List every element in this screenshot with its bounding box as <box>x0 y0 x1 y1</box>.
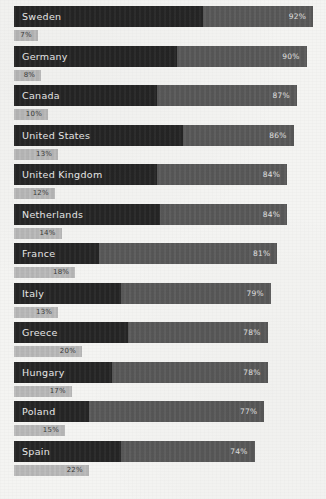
bar-primary[interactable]: France81% <box>14 243 277 264</box>
bar-value-label: 92% <box>289 6 306 27</box>
bar-secondary[interactable]: 18% <box>14 267 75 278</box>
bar-primary[interactable]: Netherlands84% <box>14 204 287 225</box>
chart-row: Germany90%8% <box>14 46 313 81</box>
bar-secondary-value-label: 22% <box>67 465 83 476</box>
bar-secondary-value-label: 15% <box>43 425 59 436</box>
bar-secondary[interactable]: 14% <box>14 228 62 239</box>
bar-secondary-value-label: 14% <box>39 228 55 239</box>
chart-row: Canada87%10% <box>14 85 313 120</box>
bar-category-label: United States <box>22 125 90 146</box>
bar-category-label: Italy <box>22 283 44 304</box>
chart-row: United Kingdom84%12% <box>14 164 313 199</box>
bar-primary[interactable]: Italy79% <box>14 283 271 304</box>
chart-row: Italy79%13% <box>14 283 313 318</box>
bar-value-label: 77% <box>240 401 257 422</box>
chart-row: Greece78%20% <box>14 322 313 357</box>
bar-primary[interactable]: Sweden92% <box>14 6 313 27</box>
bar-primary[interactable]: United Kingdom84% <box>14 164 287 185</box>
bar-primary[interactable]: Spain74% <box>14 441 255 462</box>
bar-secondary[interactable]: 10% <box>14 109 48 120</box>
bar-value-label: 78% <box>243 362 260 383</box>
bar-chart: Sweden92%7%Germany90%8%Canada87%10%Unite… <box>0 0 326 499</box>
bar-primary[interactable]: Poland77% <box>14 401 264 422</box>
bar-secondary[interactable]: 13% <box>14 149 58 160</box>
bar-primary[interactable]: United States86% <box>14 125 294 146</box>
bar-value-label: 74% <box>230 441 247 462</box>
bar-category-label: Spain <box>22 441 50 462</box>
bar-value-label: 79% <box>246 283 263 304</box>
bar-secondary-value-label: 13% <box>36 307 52 318</box>
bar-secondary-value-label: 17% <box>50 386 66 397</box>
bar-secondary-value-label: 20% <box>60 346 76 357</box>
bar-secondary[interactable]: 13% <box>14 307 58 318</box>
chart-row: Netherlands84%14% <box>14 204 313 239</box>
bar-primary[interactable]: Greece78% <box>14 322 268 343</box>
bar-value-label: 78% <box>243 322 260 343</box>
bar-category-label: Netherlands <box>22 204 83 225</box>
bar-secondary[interactable]: 20% <box>14 346 82 357</box>
bar-secondary[interactable]: 15% <box>14 425 65 436</box>
chart-row: United States86%13% <box>14 125 313 160</box>
bar-secondary[interactable]: 8% <box>14 70 41 81</box>
bar-secondary-value-label: 18% <box>53 267 69 278</box>
bar-secondary[interactable]: 12% <box>14 188 55 199</box>
bar-primary[interactable]: Canada87% <box>14 85 297 106</box>
chart-row: Spain74%22% <box>14 441 313 476</box>
bar-category-label: Poland <box>22 401 56 422</box>
bar-value-label: 84% <box>263 164 280 185</box>
bar-value-label: 87% <box>272 85 289 106</box>
bar-value-label: 86% <box>269 125 286 146</box>
bar-secondary[interactable]: 7% <box>14 30 38 41</box>
bar-category-label: Greece <box>22 322 58 343</box>
chart-row: Poland77%15% <box>14 401 313 436</box>
bar-value-label: 81% <box>253 243 270 264</box>
bar-secondary-value-label: 10% <box>26 109 42 120</box>
bar-primary[interactable]: Hungary78% <box>14 362 268 383</box>
bar-secondary-value-label: 13% <box>36 149 52 160</box>
bar-secondary[interactable]: 17% <box>14 386 72 397</box>
bar-category-label: Canada <box>22 85 60 106</box>
bar-secondary-value-label: 8% <box>24 70 36 81</box>
bar-secondary-value-label: 7% <box>20 30 32 41</box>
bar-category-label: Germany <box>22 46 68 67</box>
bar-value-label: 84% <box>263 204 280 225</box>
bar-primary[interactable]: Germany90% <box>14 46 307 67</box>
bar-secondary[interactable]: 22% <box>14 465 89 476</box>
bar-value-label: 90% <box>282 46 299 67</box>
bar-category-label: Sweden <box>22 6 61 27</box>
chart-row: France81%18% <box>14 243 313 278</box>
chart-row: Sweden92%7% <box>14 6 313 41</box>
bar-category-label: United Kingdom <box>22 164 102 185</box>
chart-row: Hungary78%17% <box>14 362 313 397</box>
bar-secondary-value-label: 12% <box>33 188 49 199</box>
bar-category-label: Hungary <box>22 362 65 383</box>
bar-category-label: France <box>22 243 55 264</box>
